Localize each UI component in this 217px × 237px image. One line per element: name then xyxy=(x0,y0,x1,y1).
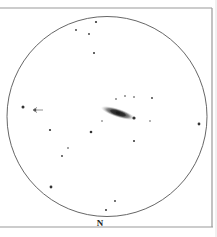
star xyxy=(95,21,97,23)
pointer-arrow-icon xyxy=(33,108,43,113)
star xyxy=(101,120,102,121)
field-of-view-circle xyxy=(7,17,207,217)
star xyxy=(90,131,93,134)
galaxy xyxy=(99,103,136,123)
star xyxy=(149,120,150,121)
eyepiece-sketch: N xyxy=(0,0,217,237)
star xyxy=(115,98,117,100)
star xyxy=(132,116,135,119)
star xyxy=(49,129,51,131)
north-label: N xyxy=(97,218,104,228)
star xyxy=(88,33,90,35)
star xyxy=(67,147,69,149)
star xyxy=(75,29,77,31)
star xyxy=(133,140,135,142)
sketch-frame xyxy=(0,0,216,237)
star-field xyxy=(22,21,201,211)
star xyxy=(22,106,25,109)
star xyxy=(93,52,95,54)
star xyxy=(151,97,153,99)
star xyxy=(50,186,53,189)
star xyxy=(133,96,135,98)
star xyxy=(198,123,201,126)
star xyxy=(124,95,126,97)
star xyxy=(105,209,107,211)
star xyxy=(61,155,63,157)
star xyxy=(114,200,116,202)
